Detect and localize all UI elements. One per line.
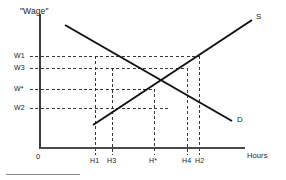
x-tick-label-hstar: H* bbox=[149, 157, 157, 164]
supply-curve bbox=[93, 20, 252, 125]
y-tick-label-w1: W1 bbox=[14, 52, 25, 59]
x-tick-label-h4: H4 bbox=[182, 157, 191, 164]
diagram-canvas: "Wage" S D Hours 0 W1 W3 W* W2 H1 H3 H* … bbox=[0, 0, 286, 180]
demand-curve-label: D bbox=[237, 116, 243, 124]
y-axis-title: "Wage" bbox=[20, 7, 49, 16]
x-tick-label-h1: H1 bbox=[90, 157, 99, 164]
supply-curve-label: S bbox=[256, 13, 261, 21]
y-tick-label-wstar: W* bbox=[14, 85, 24, 92]
x-axis-title: Hours bbox=[247, 152, 268, 160]
demand-curve bbox=[65, 25, 232, 121]
x-tick-label-h3: H3 bbox=[107, 157, 116, 164]
y-tick-label-w2: W2 bbox=[14, 104, 25, 111]
y-tick-label-w3: W3 bbox=[14, 64, 25, 71]
supply-demand-chart bbox=[0, 0, 286, 180]
x-tick-label-h2: H2 bbox=[195, 157, 204, 164]
origin-label: 0 bbox=[36, 153, 40, 161]
